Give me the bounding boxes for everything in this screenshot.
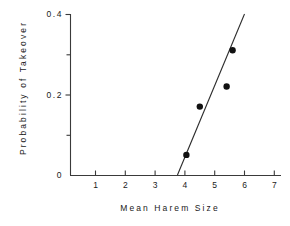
x-tick-label-7: 7 xyxy=(267,180,281,190)
x-axis-tick-labels: 1 2 3 4 5 6 7 xyxy=(0,0,290,226)
x-tick-label-1: 1 xyxy=(89,180,103,190)
x-tick-label-2: 2 xyxy=(118,180,132,190)
scatter-chart: Probability of Takeover 0.4 0.2 0 xyxy=(0,0,290,226)
x-tick-label-5: 5 xyxy=(208,180,222,190)
x-tick-label-3: 3 xyxy=(148,180,162,190)
x-tick-label-4: 4 xyxy=(178,180,192,190)
x-tick-label-6: 6 xyxy=(238,180,252,190)
x-axis-title: Mean Harem Size xyxy=(60,203,280,213)
